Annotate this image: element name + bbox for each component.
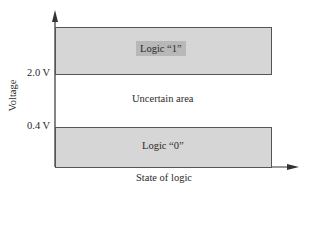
- logic-0-label: Logic “0”: [142, 140, 184, 151]
- tick-2v: 2.0 V: [27, 67, 50, 78]
- uncertain-area-label: Uncertain area: [132, 93, 194, 104]
- x-axis-label: State of logic: [136, 172, 192, 183]
- y-axis-label: Voltage: [7, 80, 18, 112]
- logic-1-label: Logic “1”: [136, 41, 186, 56]
- tick-0-4v: 0.4 V: [27, 120, 50, 131]
